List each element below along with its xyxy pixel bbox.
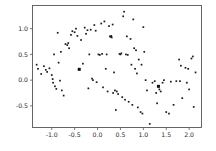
y-tick-label: 0.5 bbox=[18, 51, 28, 58]
data-point bbox=[132, 19, 134, 21]
data-point bbox=[65, 43, 67, 45]
data-point bbox=[140, 111, 142, 113]
highlighted-data-point bbox=[157, 85, 160, 88]
data-point bbox=[40, 73, 42, 75]
data-point bbox=[104, 21, 106, 23]
data-point bbox=[80, 39, 82, 41]
data-point bbox=[95, 30, 97, 32]
data-point bbox=[121, 53, 123, 55]
data-point bbox=[45, 69, 47, 71]
data-point bbox=[59, 80, 61, 82]
data-point bbox=[131, 104, 133, 106]
data-point bbox=[90, 29, 92, 31]
data-point bbox=[116, 91, 118, 93]
data-point bbox=[142, 26, 144, 28]
data-point bbox=[58, 62, 60, 64]
data-point bbox=[60, 51, 62, 53]
data-point bbox=[135, 49, 137, 51]
data-point bbox=[131, 64, 133, 66]
data-point bbox=[91, 78, 93, 80]
x-tick-label: 1.0 bbox=[138, 131, 148, 138]
data-point bbox=[193, 106, 195, 108]
data-point bbox=[159, 89, 161, 91]
data-point bbox=[52, 82, 54, 84]
data-point bbox=[52, 78, 54, 80]
y-tick-label: -0.5 bbox=[16, 102, 28, 109]
data-point bbox=[102, 86, 104, 88]
data-point bbox=[142, 113, 144, 115]
y-tick-label: 0.0 bbox=[18, 76, 28, 83]
data-point bbox=[187, 68, 189, 70]
data-point bbox=[46, 71, 48, 73]
data-point bbox=[175, 80, 177, 82]
data-point bbox=[188, 89, 190, 91]
x-tick-label: 0.0 bbox=[93, 131, 103, 138]
data-point bbox=[54, 85, 56, 87]
data-point bbox=[121, 96, 123, 98]
data-point bbox=[152, 82, 154, 84]
data-point bbox=[179, 80, 181, 82]
data-points-layer bbox=[36, 11, 197, 125]
data-point bbox=[163, 79, 165, 81]
data-point bbox=[143, 51, 145, 53]
data-point bbox=[162, 82, 164, 84]
x-tick-label: 0.5 bbox=[116, 131, 126, 138]
data-point bbox=[141, 64, 143, 66]
x-tick-label: -0.5 bbox=[69, 131, 81, 138]
data-point bbox=[85, 33, 87, 35]
highlighted-data-point bbox=[78, 68, 81, 71]
scatter-plot-figure: -1.0-0.50.00.51.01.52.0 -0.50.00.51.0 bbox=[0, 0, 216, 151]
data-point bbox=[36, 64, 38, 66]
data-point bbox=[137, 107, 139, 109]
data-point bbox=[53, 54, 55, 56]
data-point bbox=[87, 29, 89, 31]
data-point bbox=[154, 80, 156, 82]
axes-spines bbox=[33, 6, 202, 128]
data-point bbox=[74, 31, 76, 33]
data-point bbox=[149, 123, 151, 125]
data-point bbox=[124, 99, 126, 101]
data-point bbox=[75, 28, 77, 30]
data-point bbox=[127, 54, 129, 56]
data-point bbox=[88, 88, 90, 90]
data-point bbox=[51, 74, 53, 76]
data-point bbox=[63, 95, 65, 97]
x-tick-label: 1.5 bbox=[161, 131, 171, 138]
data-point bbox=[114, 90, 116, 92]
data-point bbox=[192, 56, 194, 58]
data-point bbox=[101, 53, 103, 55]
data-point bbox=[168, 113, 170, 115]
data-point bbox=[112, 24, 114, 26]
data-point bbox=[113, 72, 115, 74]
data-point bbox=[165, 111, 167, 113]
data-point bbox=[88, 54, 90, 56]
data-point bbox=[191, 58, 193, 60]
data-point bbox=[133, 47, 135, 49]
data-point bbox=[173, 104, 175, 106]
data-point bbox=[37, 68, 39, 70]
data-point bbox=[111, 37, 113, 39]
data-point bbox=[130, 38, 132, 40]
data-point bbox=[123, 11, 125, 13]
data-point bbox=[68, 47, 70, 49]
data-point bbox=[186, 82, 188, 84]
data-point bbox=[93, 24, 95, 26]
data-point bbox=[155, 92, 157, 94]
data-point bbox=[112, 92, 114, 94]
y-tick-label: 1.0 bbox=[18, 25, 28, 32]
x-tick-label: 2.0 bbox=[184, 131, 194, 138]
data-point bbox=[106, 54, 108, 56]
data-point bbox=[146, 90, 148, 92]
data-point bbox=[180, 65, 182, 67]
data-point bbox=[170, 81, 172, 83]
data-point bbox=[156, 102, 158, 104]
highlighted-points-layer bbox=[78, 68, 160, 88]
data-point bbox=[82, 63, 84, 65]
y-axis-ticks: -0.50.00.51.0 bbox=[16, 25, 33, 109]
data-point bbox=[160, 91, 162, 93]
data-point bbox=[61, 90, 63, 92]
data-point bbox=[115, 109, 117, 111]
data-point bbox=[77, 35, 79, 37]
data-point bbox=[126, 36, 128, 38]
data-point bbox=[181, 97, 183, 99]
